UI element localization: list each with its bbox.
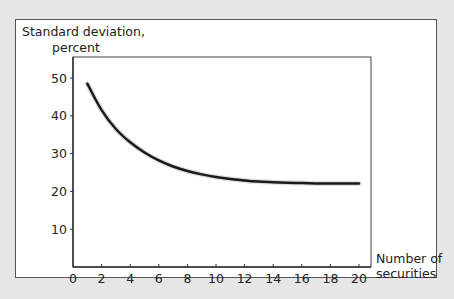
x-tick-label: 12 — [237, 271, 253, 286]
curve-shadow — [87, 84, 359, 184]
x-tick-label: 2 — [98, 271, 106, 286]
x-tick-label: 8 — [183, 271, 191, 286]
std-dev-curve — [87, 84, 359, 184]
x-axis-label-line2: securities — [376, 266, 436, 281]
x-axis-label-line1: Number of — [376, 251, 443, 266]
x-tick-label: 20 — [351, 271, 367, 286]
y-tick-label: 50 — [51, 71, 67, 86]
y-ticks: 1020304050 — [51, 71, 73, 237]
y-axis-label-line1: Standard deviation, — [22, 24, 145, 39]
x-tick-label: 0 — [69, 271, 77, 286]
x-tick-label: 14 — [265, 271, 281, 286]
x-tick-label: 10 — [208, 271, 224, 286]
plot-area — [73, 57, 371, 267]
y-axis-label-line2: percent — [52, 40, 100, 55]
x-tick-label: 18 — [322, 271, 338, 286]
x-tick-label: 6 — [155, 271, 163, 286]
risk-diversification-chart: Standard deviation, percent 1020304050 0… — [0, 0, 454, 299]
x-tick-label: 16 — [294, 271, 310, 286]
y-tick-label: 40 — [51, 108, 67, 123]
y-tick-label: 20 — [51, 184, 67, 199]
y-tick-label: 30 — [51, 146, 67, 161]
x-tick-label: 4 — [126, 271, 134, 286]
y-tick-label: 10 — [51, 222, 67, 237]
